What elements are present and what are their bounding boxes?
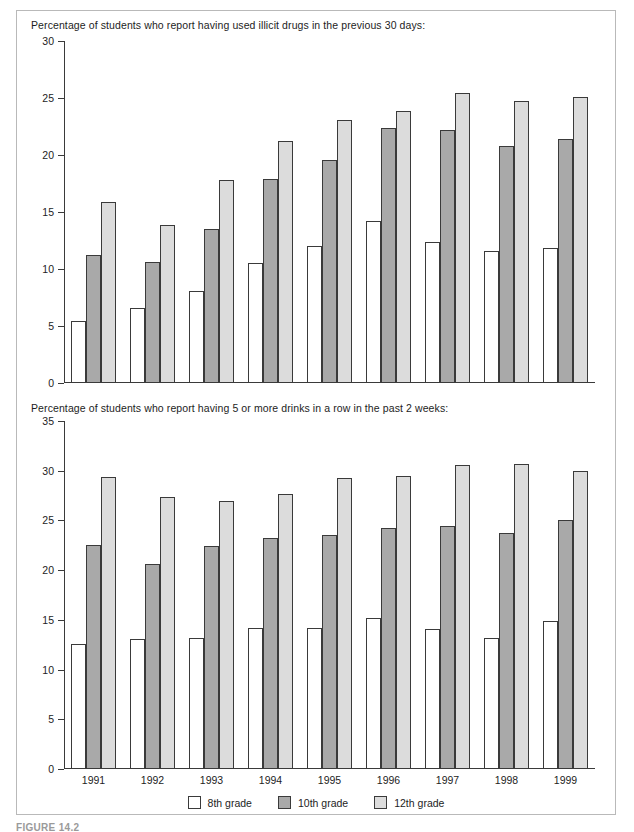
bar-drinks-1995-12th-grade bbox=[337, 478, 352, 769]
bar-group-drugs-1999 bbox=[536, 41, 595, 383]
legend-swatch-icon-g12 bbox=[374, 796, 387, 809]
x-axis-label-1991: 1991 bbox=[64, 774, 123, 790]
bar-group-drinks-1997 bbox=[418, 421, 477, 769]
bar-drugs-1995-10th-grade bbox=[322, 160, 337, 383]
bar-drugs-1996-10th-grade bbox=[381, 128, 396, 383]
bar-drugs-1993-8th-grade bbox=[189, 291, 204, 383]
bar-drugs-1999-12th-grade bbox=[573, 97, 588, 383]
bar-group-drugs-1991 bbox=[64, 41, 123, 383]
y-tick-label-drugs-10: 10 bbox=[42, 263, 54, 275]
bar-group-drinks-1998 bbox=[477, 421, 536, 769]
bar-group-drugs-1994 bbox=[241, 41, 300, 383]
y-tick-label-drugs-5: 5 bbox=[48, 320, 54, 332]
y-tick-drugs-10: 10 bbox=[58, 269, 64, 270]
bar-drugs-1993-12th-grade bbox=[219, 180, 234, 383]
bar-drugs-1991-12th-grade bbox=[101, 202, 116, 383]
bar-drugs-1997-8th-grade bbox=[425, 242, 440, 383]
bar-drugs-1997-10th-grade bbox=[440, 130, 455, 383]
bar-drugs-1992-8th-grade bbox=[130, 308, 145, 383]
x-axis-label-1993: 1993 bbox=[182, 774, 241, 790]
legend-swatch-icon-g10 bbox=[278, 796, 291, 809]
x-axis-label-1998: 1998 bbox=[477, 774, 536, 790]
bar-drinks-1995-10th-grade bbox=[322, 535, 337, 769]
bar-drinks-1994-10th-grade bbox=[263, 538, 278, 769]
y-tick-drugs-20: 20 bbox=[58, 155, 64, 156]
x-axis-label-1992: 1992 bbox=[123, 774, 182, 790]
legend-item-8th-grade: 8th grade bbox=[188, 796, 252, 809]
y-tick-label-drinks-15: 15 bbox=[42, 614, 54, 626]
bar-drugs-1994-10th-grade bbox=[263, 179, 278, 383]
bar-group-drinks-1996 bbox=[359, 421, 418, 769]
bar-drugs-1998-8th-grade bbox=[484, 251, 499, 383]
bar-group-drugs-1995 bbox=[300, 41, 359, 383]
bar-drugs-1998-10th-grade bbox=[499, 146, 514, 383]
bar-drinks-1999-12th-grade bbox=[573, 471, 588, 769]
bar-drugs-1999-10th-grade bbox=[558, 139, 573, 383]
x-axis-label-1995: 1995 bbox=[300, 774, 359, 790]
bar-drinks-1996-8th-grade bbox=[366, 618, 381, 769]
y-tick-drinks-15: 15 bbox=[58, 620, 64, 621]
chart-panel-binge-drinking: Percentage of students who report having… bbox=[17, 394, 615, 774]
y-tick-drinks-5: 5 bbox=[58, 719, 64, 720]
bar-drinks-1993-10th-grade bbox=[204, 546, 219, 769]
legend-item-10th-grade: 10th grade bbox=[278, 796, 348, 809]
bar-drinks-1998-8th-grade bbox=[484, 638, 499, 769]
bar-drinks-1993-12th-grade bbox=[219, 501, 234, 769]
y-tick-label-drinks-25: 25 bbox=[42, 514, 54, 526]
bar-drugs-1996-12th-grade bbox=[396, 111, 411, 383]
bar-drinks-1993-8th-grade bbox=[189, 638, 204, 769]
bar-drugs-1991-10th-grade bbox=[86, 255, 101, 383]
y-tick-label-drugs-25: 25 bbox=[42, 92, 54, 104]
legend-swatch-icon-g8 bbox=[188, 796, 201, 809]
bar-drinks-1996-12th-grade bbox=[396, 476, 411, 769]
figure-frame: Percentage of students who report having… bbox=[16, 10, 616, 815]
bar-drugs-1998-12th-grade bbox=[514, 101, 529, 383]
y-tick-drugs-0: 0 bbox=[58, 383, 64, 384]
bar-drugs-1999-8th-grade bbox=[543, 248, 558, 383]
y-tick-drinks-25: 25 bbox=[58, 520, 64, 521]
bar-drugs-1992-12th-grade bbox=[160, 225, 175, 383]
plot-area-illicit-drugs: 051015202530 bbox=[64, 41, 595, 383]
y-tick-drugs-15: 15 bbox=[58, 212, 64, 213]
bar-drinks-1992-8th-grade bbox=[130, 639, 145, 769]
y-tick-drinks-30: 30 bbox=[58, 471, 64, 472]
y-tick-label-drinks-10: 10 bbox=[42, 664, 54, 676]
bar-groups-illicit-drugs bbox=[64, 41, 595, 383]
chart-title-illicit-drugs: Percentage of students who report having… bbox=[31, 19, 425, 31]
y-tick-drinks-20: 20 bbox=[58, 570, 64, 571]
x-axis-label-1997: 1997 bbox=[418, 774, 477, 790]
bar-drugs-1995-12th-grade bbox=[337, 120, 352, 383]
bar-group-drinks-1992 bbox=[123, 421, 182, 769]
bar-drugs-1993-10th-grade bbox=[204, 229, 219, 383]
bar-drinks-1995-8th-grade bbox=[307, 628, 322, 769]
bar-group-drinks-1991 bbox=[64, 421, 123, 769]
y-tick-drinks-10: 10 bbox=[58, 670, 64, 671]
y-tick-label-drinks-20: 20 bbox=[42, 564, 54, 576]
y-tick-label-drugs-20: 20 bbox=[42, 149, 54, 161]
bar-drinks-1998-12th-grade bbox=[514, 464, 529, 769]
bar-group-drinks-1993 bbox=[182, 421, 241, 769]
legend-label-g8: 8th grade bbox=[208, 797, 252, 809]
bar-drinks-1997-8th-grade bbox=[425, 629, 440, 769]
bar-group-drinks-1999 bbox=[536, 421, 595, 769]
bar-group-drugs-1993 bbox=[182, 41, 241, 383]
bar-drugs-1992-10th-grade bbox=[145, 262, 160, 383]
bar-drinks-1999-10th-grade bbox=[558, 520, 573, 769]
x-axis-label-1994: 1994 bbox=[241, 774, 300, 790]
x-axis-label-1996: 1996 bbox=[359, 774, 418, 790]
y-tick-drugs-30: 30 bbox=[58, 41, 64, 42]
y-tick-label-drugs-30: 30 bbox=[42, 35, 54, 47]
bar-group-drinks-1994 bbox=[241, 421, 300, 769]
bar-group-drinks-1995 bbox=[300, 421, 359, 769]
bar-drinks-1999-8th-grade bbox=[543, 621, 558, 769]
x-axis-labels: 199119921993199419951996199719981999 bbox=[64, 774, 595, 790]
bar-drinks-1992-12th-grade bbox=[160, 497, 175, 769]
bar-drinks-1991-8th-grade bbox=[71, 644, 86, 769]
y-tick-drinks-0: 0 bbox=[58, 769, 64, 770]
legend-item-12th-grade: 12th grade bbox=[374, 796, 444, 809]
bar-group-drugs-1992 bbox=[123, 41, 182, 383]
bar-drinks-1998-10th-grade bbox=[499, 533, 514, 769]
bar-drinks-1992-10th-grade bbox=[145, 564, 160, 769]
y-tick-label-drugs-0: 0 bbox=[48, 377, 54, 389]
bar-drugs-1997-12th-grade bbox=[455, 93, 470, 383]
